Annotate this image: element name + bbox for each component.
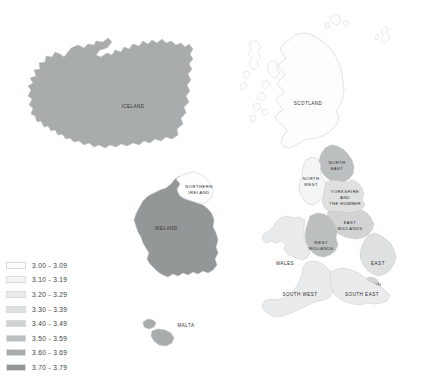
malta-label: MALTA bbox=[178, 323, 195, 328]
legend-row[interactable]: 3.20 - 3.29 bbox=[6, 287, 106, 302]
value-legend: 3.00 - 3.09 3.10 - 3.19 3.20 - 3.29 3.30… bbox=[6, 258, 106, 375]
scotland-shape[interactable] bbox=[275, 33, 344, 148]
yorkshire-shape[interactable] bbox=[322, 180, 365, 214]
wales-shape[interactable] bbox=[262, 216, 310, 260]
region-malta[interactable]: MALTA bbox=[143, 319, 195, 346]
orkney-islands-shape bbox=[325, 14, 349, 28]
legend-label: 3.10 - 3.19 bbox=[32, 276, 67, 283]
region-scotland[interactable]: SCOTLAND bbox=[275, 33, 344, 148]
legend-swatch bbox=[6, 349, 26, 356]
region-wales[interactable]: WALES bbox=[262, 216, 310, 266]
legend-label: 3.60 - 3.69 bbox=[32, 349, 67, 356]
region-east[interactable]: EAST bbox=[360, 233, 396, 276]
legend-row[interactable]: 3.40 - 3.49 bbox=[6, 316, 106, 331]
legend-swatch bbox=[6, 364, 26, 371]
malta-gozo-shape[interactable] bbox=[143, 319, 156, 329]
malta-main-shape[interactable] bbox=[151, 329, 174, 346]
iceland-shape[interactable] bbox=[28, 38, 193, 148]
region-yorkshire-and-the-humber[interactable]: YORKSHIRE AND THE HUMBER bbox=[322, 180, 365, 214]
region-iceland[interactable]: ICELAND bbox=[28, 38, 193, 148]
legend-label: 3.70 - 3.79 bbox=[32, 364, 67, 371]
legend-row[interactable]: 3.50 - 3.59 bbox=[6, 331, 106, 346]
legend-label: 3.50 - 3.59 bbox=[32, 335, 67, 342]
legend-swatch bbox=[6, 320, 26, 327]
legend-label: 3.40 - 3.49 bbox=[32, 320, 67, 327]
region-north-east[interactable]: NORTH EAST bbox=[319, 145, 354, 183]
legend-swatch bbox=[6, 306, 26, 313]
legend-row[interactable]: 3.30 - 3.39 bbox=[6, 302, 106, 317]
north-east-shape[interactable] bbox=[319, 145, 354, 183]
legend-row[interactable]: 3.00 - 3.09 bbox=[6, 258, 106, 273]
shetland-islands-shape bbox=[375, 26, 390, 43]
legend-label: 3.20 - 3.29 bbox=[32, 291, 67, 298]
legend-row[interactable]: 3.70 - 3.79 bbox=[6, 360, 106, 375]
legend-swatch bbox=[6, 291, 26, 298]
legend-swatch bbox=[6, 276, 26, 283]
region-south-west[interactable]: SOUTH WEST bbox=[262, 261, 333, 317]
legend-row[interactable]: 3.10 - 3.19 bbox=[6, 273, 106, 288]
legend-row[interactable]: 3.60 - 3.69 bbox=[6, 346, 106, 361]
legend-label: 3.30 - 3.39 bbox=[32, 306, 67, 313]
legend-swatch bbox=[6, 262, 26, 269]
legend-label: 3.00 - 3.09 bbox=[32, 262, 67, 269]
legend-swatch bbox=[6, 335, 26, 342]
wales-label: WALES bbox=[276, 261, 294, 266]
outer-hebrides-shape bbox=[240, 40, 261, 90]
east-shape[interactable] bbox=[360, 233, 396, 276]
south-west-shape[interactable] bbox=[262, 261, 333, 317]
